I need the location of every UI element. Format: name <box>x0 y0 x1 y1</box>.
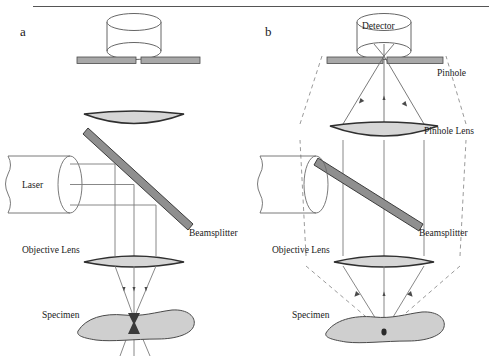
panel-a-beamsplitter: Beamsplitter <box>83 128 238 238</box>
panel-b-collimated-rays <box>300 140 466 256</box>
panel-b-pinhole-lens: Pinhole Lens <box>330 122 474 136</box>
panel-b: b Detector Pinhole <box>258 14 475 343</box>
panel-b-specimen: Specimen <box>292 310 444 343</box>
panel-b-detection-rays-upper <box>300 44 466 124</box>
panel-a-top-cylinder <box>107 14 161 60</box>
panel-a-upper-lens <box>84 111 184 124</box>
pinhole-lens-label: Pinhole Lens <box>424 126 474 136</box>
detector-label: Detector <box>362 21 396 31</box>
panel-a-converging-rays <box>115 266 156 356</box>
laser-label: Laser <box>22 180 44 190</box>
panel-b-pinhole: Pinhole <box>327 57 466 78</box>
panel-b-beamsplitter: Beamsplitter <box>314 158 468 238</box>
pinhole-label: Pinhole <box>437 68 466 78</box>
panel-a: a Laser <box>6 14 239 357</box>
beamsplitter-label-a: Beamsplitter <box>189 228 238 238</box>
panel-b-label: b <box>265 24 272 39</box>
beamsplitter-label-b: Beamsplitter <box>419 228 468 238</box>
panel-a-label: a <box>20 24 26 39</box>
panel-a-aperture <box>77 57 200 64</box>
specimen-label-a: Specimen <box>42 310 80 320</box>
specimen-label-b: Specimen <box>292 310 330 320</box>
panel-a-specimen: Specimen <box>42 310 194 341</box>
figure-confocal-microscopy: a Laser <box>0 0 497 357</box>
panel-b-objective-lens: Objective Lens <box>272 245 434 267</box>
panel-a-objective-lens: Objective Lens <box>22 245 184 267</box>
objective-lens-label-b: Objective Lens <box>272 245 330 255</box>
objective-lens-label-a: Objective Lens <box>22 245 80 255</box>
